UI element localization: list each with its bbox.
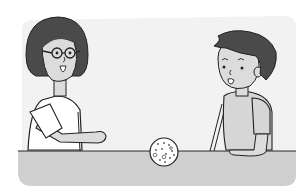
scene-drawing — [0, 0, 297, 195]
girl-neck — [54, 80, 66, 96]
girl-face — [42, 38, 77, 81]
girl-eye-left — [56, 52, 59, 55]
boy-eye-left — [223, 66, 226, 69]
illustration-scene — [0, 0, 297, 195]
boy-mouth — [228, 79, 234, 85]
girl-eye-right — [69, 52, 72, 55]
ball — [150, 138, 178, 166]
boy-eye-right — [241, 67, 244, 70]
